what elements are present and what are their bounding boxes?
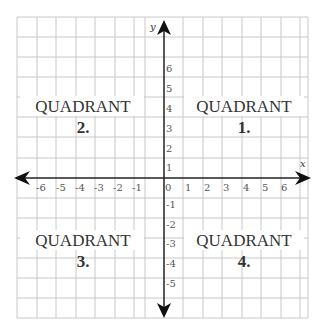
x-tick: -5 xyxy=(56,182,66,193)
x-tick: -6 xyxy=(36,182,46,193)
svg-text:QUADRANT: QUADRANT xyxy=(35,231,131,250)
svg-text:3.: 3. xyxy=(77,252,90,271)
origin-label: 0 xyxy=(165,182,171,193)
y-axis-label: y xyxy=(149,21,156,32)
y-tick: 6 xyxy=(166,63,172,74)
y-tick: -3 xyxy=(166,238,176,249)
x-tick: 3 xyxy=(223,182,229,193)
x-tick: 2 xyxy=(204,182,210,193)
y-tick: 5 xyxy=(166,83,172,94)
x-tick: 5 xyxy=(262,182,268,193)
y-tick: -5 xyxy=(166,278,176,289)
y-tick: 2 xyxy=(166,143,172,154)
x-tick: -1 xyxy=(132,182,142,193)
x-tick: 6 xyxy=(281,182,287,193)
svg-text:4.: 4. xyxy=(238,252,251,271)
svg-text:QUADRANT: QUADRANT xyxy=(196,97,292,116)
svg-text:2.: 2. xyxy=(77,118,90,137)
svg-text:1.: 1. xyxy=(238,118,251,137)
x-tick: -2 xyxy=(113,182,123,193)
quadrant-4-label: QUADRANT 4. xyxy=(184,230,304,271)
y-tick: 3 xyxy=(166,123,172,134)
svg-text:QUADRANT: QUADRANT xyxy=(35,97,131,116)
x-tick-labels: -6 -5 -4 -3 -2 -1 1 2 3 4 5 6 xyxy=(36,182,287,193)
svg-text:QUADRANT: QUADRANT xyxy=(196,231,292,250)
x-tick: -4 xyxy=(75,182,85,193)
y-tick: -1 xyxy=(166,199,176,210)
x-axis-label: x xyxy=(300,158,306,169)
grid xyxy=(17,17,308,318)
y-tick: -4 xyxy=(166,258,176,269)
x-tick: 1 xyxy=(185,182,191,193)
y-tick: -2 xyxy=(166,219,176,230)
y-tick: 4 xyxy=(166,103,172,114)
y-tick: 1 xyxy=(166,162,172,173)
coordinate-plane: y x 0 -6 -5 -4 -3 -2 -1 1 2 3 4 5 6 1 2 … xyxy=(0,0,324,331)
x-tick: -3 xyxy=(94,182,104,193)
x-tick: 4 xyxy=(243,182,249,193)
